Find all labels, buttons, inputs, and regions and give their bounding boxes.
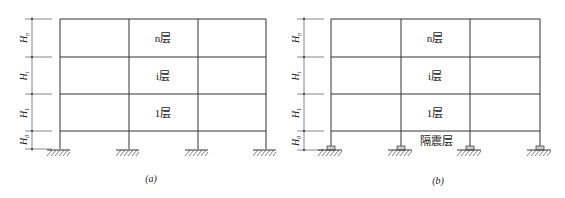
structural-frame-figure: n层 i层 1层 Hn Hi H1 H0 (a) [0,0,565,198]
svg-text:H0: H0 [290,136,302,147]
svg-text:Hi: Hi [290,71,302,81]
floor-label-n: n层 [155,32,172,44]
panel-b-isolated-base-frame: n层 i层 1层 隔震层 Hn Hi H1 H0 (b) [290,17,551,187]
svg-text:Hn: Hn [290,33,302,44]
isolator-bearing-icon [457,146,481,156]
dim-label-h1: H1 [18,108,30,119]
dim-label-h1: H1 [290,108,302,119]
fixed-support-icon [116,150,139,156]
fixed-support-icon [185,150,208,156]
isolator-bearing-icon [388,146,412,156]
isolator-bearing-icon [318,146,342,156]
svg-text:Hn: Hn [18,33,30,44]
panel-a-fixed-base-frame: n层 i层 1层 Hn Hi H1 H0 (a) [18,17,276,185]
isolator-bearing-icon [527,146,551,156]
svg-text:H1: H1 [18,108,30,119]
floor-label-i: i层 [156,70,170,82]
floor-label-1: 1层 [427,107,444,119]
floor-label-n: n层 [427,32,444,44]
caption-b: (b) [432,175,444,187]
dim-label-hi: Hi [18,71,30,81]
dim-label-hn: Hn [18,33,30,44]
caption-a: (a) [145,173,157,185]
isolation-layer-label: 隔震层 [420,135,453,147]
dim-label-hn: Hn [290,33,302,44]
dim-label-hi: Hi [290,71,302,81]
svg-text:H1: H1 [290,108,302,119]
floor-label-1: 1层 [155,107,172,119]
fixed-support-icon [47,150,70,156]
dim-label-h0: H0 [18,135,30,146]
svg-text:H0: H0 [18,135,30,146]
floor-label-i: i层 [428,70,442,82]
svg-text:Hi: Hi [18,71,30,81]
fixed-support-icon [253,150,276,156]
dim-label-h0: H0 [290,136,302,147]
